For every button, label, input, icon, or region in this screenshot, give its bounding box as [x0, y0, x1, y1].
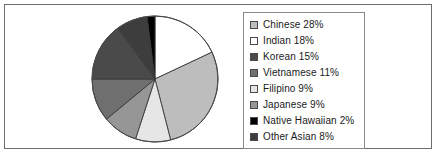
legend-swatch-vietnamese — [250, 69, 258, 77]
pie-chart-svg — [89, 13, 221, 145]
legend-item: Korean 15% — [250, 49, 359, 64]
pie-slice-group — [92, 16, 218, 142]
legend-item-label: Vietnamese 11% — [263, 67, 339, 78]
legend-swatch-korean — [250, 53, 258, 61]
legend-item: Vietnamese 11% — [250, 65, 359, 80]
legend-item: Filipino 9% — [250, 81, 359, 96]
legend-item-label: Other Asian 8% — [263, 131, 334, 142]
legend-swatch-filipino — [250, 85, 258, 93]
legend-item-label: Korean 15% — [263, 51, 319, 62]
legend-swatch-other-asian — [250, 133, 258, 141]
pie-chart — [89, 13, 221, 145]
legend-item-label: Native Hawaiian 2% — [263, 115, 354, 126]
legend-swatch-indian — [250, 37, 258, 45]
legend-swatch-native-hawaiian — [250, 117, 258, 125]
legend-item-list: Chinese 28%Indian 18%Korean 15%Vietnames… — [250, 17, 359, 144]
legend-swatch-chinese — [250, 21, 258, 29]
legend-item-label: Filipino 9% — [263, 83, 313, 94]
legend-item-label: Japanese 9% — [263, 99, 325, 110]
legend-item-label: Chinese 28% — [263, 19, 324, 30]
legend-swatch-japanese — [250, 101, 258, 109]
chart-frame: Chinese 28%Indian 18%Korean 15%Vietnames… — [4, 4, 432, 149]
chart-legend: Chinese 28%Indian 18%Korean 15%Vietnames… — [243, 12, 365, 149]
legend-item: Indian 18% — [250, 33, 359, 48]
legend-item: Japanese 9% — [250, 97, 359, 112]
legend-item: Chinese 28% — [250, 17, 359, 32]
legend-item: Other Asian 8% — [250, 129, 359, 144]
legend-item-label: Indian 18% — [263, 35, 314, 46]
legend-item: Native Hawaiian 2% — [250, 113, 359, 128]
